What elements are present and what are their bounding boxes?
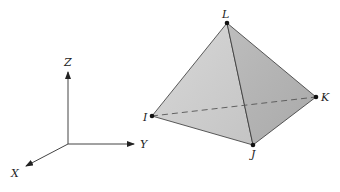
vertex-K xyxy=(314,95,319,100)
z-axis-label: Z xyxy=(63,56,72,69)
vertex-label-J: J xyxy=(249,148,256,161)
coordinate-axes: Z Y X xyxy=(10,56,149,180)
x-axis xyxy=(26,144,68,166)
y-axis-label: Y xyxy=(140,138,149,151)
vertex-label-I: I xyxy=(142,111,148,124)
vertex-I xyxy=(150,114,155,119)
tetrahedron: L I J K xyxy=(142,8,330,161)
vertex-label-L: L xyxy=(221,8,229,21)
vertex-label-K: K xyxy=(320,91,330,104)
x-axis-label: X xyxy=(10,167,20,180)
vertex-J xyxy=(251,143,256,148)
vertex-L xyxy=(225,21,230,26)
tetrahedron-diagram: Z Y X L I J K xyxy=(0,0,340,192)
